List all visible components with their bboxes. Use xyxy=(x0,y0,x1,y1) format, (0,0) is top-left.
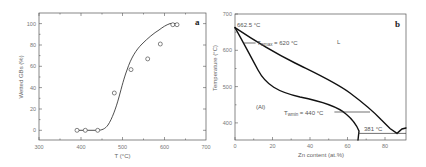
y-axis-label-b: Temperature (°C) xyxy=(212,45,218,91)
chart-panel-b: 0 20 40 60 80 700 600 500 400 Zn content… xyxy=(212,11,406,158)
annotation-twmin: Twmin = 440 °C xyxy=(284,110,324,117)
y-tick-label: 20 xyxy=(30,106,36,112)
y-tick-label: 600 xyxy=(223,47,232,53)
right-boundary-curve xyxy=(397,128,406,133)
y-tick-label: 400 xyxy=(223,120,232,126)
x-tick-label: 500 xyxy=(118,144,127,150)
fit-curve-a xyxy=(77,24,177,131)
x-tick-label: 60 xyxy=(344,143,350,149)
panel-label-a: a xyxy=(195,17,200,27)
y-tick-label: 60 xyxy=(30,63,36,69)
plot-frame-a xyxy=(39,13,206,140)
x-tick-label: 400 xyxy=(76,144,85,150)
x-axis-ticks-a xyxy=(39,13,186,140)
y-tick-label: 40 xyxy=(30,85,36,91)
x-tick-label: 80 xyxy=(382,143,388,149)
x-axis-ticks-b xyxy=(235,137,385,140)
y-axis-label-a: Wetted GBs (%) xyxy=(18,55,24,98)
panel-label-b: b xyxy=(395,19,400,29)
y-tick-label: 80 xyxy=(30,42,36,48)
y-axis-ticks-a xyxy=(39,24,206,131)
y-tick-label: 700 xyxy=(223,11,232,17)
chart-panel-a: 300 400 500 600 700 0 20 40 60 80 100 T … xyxy=(18,13,211,159)
plot-frame-b xyxy=(235,14,406,140)
annotation-twmax: Twmax = 620 °C xyxy=(257,40,298,47)
x-tick-label: 300 xyxy=(34,144,43,150)
data-points-a xyxy=(75,23,179,133)
x-axis-label-b: Zn content (at.%) xyxy=(298,152,344,158)
x-tick-label: 40 xyxy=(307,143,313,149)
x-tick-label: 600 xyxy=(160,144,169,150)
x-axis-label-a: T (°C) xyxy=(115,153,131,159)
y-tick-label: 100 xyxy=(27,21,36,27)
annotation-melting-point: 662.5 °C xyxy=(237,22,261,28)
y-tick-label: 0 xyxy=(33,127,36,133)
y-tick-label: 500 xyxy=(223,84,232,90)
x-tick-label: 700 xyxy=(201,144,210,150)
annotation-eutectoid-temp: 381 °C xyxy=(364,126,383,132)
annotation-al-phase: (Al) xyxy=(256,104,265,110)
x-tick-label: 20 xyxy=(269,143,275,149)
annotation-liquid-L: L xyxy=(337,39,341,45)
x-tick-label: 0 xyxy=(233,143,236,149)
